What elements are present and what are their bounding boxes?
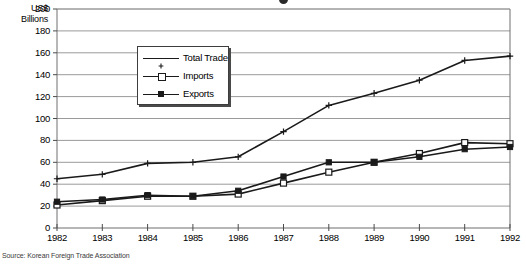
legend-label-exports: Exports xyxy=(183,87,214,101)
data-point-marker xyxy=(281,174,286,179)
x-tick-label: 1986 xyxy=(218,233,258,243)
data-point-marker xyxy=(144,160,150,166)
data-point-marker xyxy=(100,197,105,202)
legend-swatch-total-trade xyxy=(143,57,179,59)
data-point-marker xyxy=(54,176,60,182)
legend-label-imports: Imports xyxy=(183,69,213,83)
x-tick-label: 1984 xyxy=(128,233,168,243)
x-tick-label: 1989 xyxy=(354,233,394,243)
source-note: Source: Korean Foreign Trade Association xyxy=(2,252,130,260)
legend-label-total-trade: Total Trade xyxy=(183,51,228,65)
x-tick-label: 1991 xyxy=(445,233,485,243)
legend-item-total-trade: Total Trade xyxy=(143,51,225,65)
data-point-marker xyxy=(190,194,195,199)
x-tick-label: 1983 xyxy=(82,233,122,243)
x-tick-label: 1987 xyxy=(264,233,304,243)
trade-line-chart: US$ Billions 020406080100120140160180200… xyxy=(0,0,526,264)
x-tick-label: 1992 xyxy=(490,233,526,243)
data-point-marker xyxy=(281,180,287,186)
data-point-marker xyxy=(416,77,422,83)
x-tick-label: 1988 xyxy=(309,233,349,243)
data-point-marker xyxy=(372,160,377,165)
data-point-marker xyxy=(507,53,513,59)
plot-area xyxy=(0,0,526,264)
data-point-marker xyxy=(462,140,468,146)
data-point-marker xyxy=(99,171,105,177)
chart-legend: Total Trade Imports Exports xyxy=(137,46,229,105)
legend-item-imports: Imports xyxy=(143,69,225,83)
x-axis-tick-labels: 1982198319841985198619871988198919901991… xyxy=(0,233,526,247)
filled-square-marker-icon xyxy=(158,91,164,97)
data-point-marker xyxy=(417,154,422,159)
data-point-marker xyxy=(190,159,196,165)
legend-swatch-imports xyxy=(143,75,179,77)
x-tick-label: 1990 xyxy=(399,233,439,243)
data-point-marker xyxy=(235,154,241,160)
data-point-marker xyxy=(326,169,332,175)
legend-swatch-exports xyxy=(143,93,179,95)
data-point-marker xyxy=(54,199,59,204)
x-tick-label: 1985 xyxy=(173,233,213,243)
x-tick-label: 1982 xyxy=(37,233,77,243)
data-point-marker xyxy=(145,193,150,198)
legend-item-exports: Exports xyxy=(143,87,225,101)
data-point-marker xyxy=(236,188,241,193)
data-point-marker xyxy=(326,160,331,165)
open-square-marker-icon xyxy=(158,73,166,81)
data-point-marker xyxy=(507,144,512,149)
data-point-marker xyxy=(371,90,377,96)
data-point-marker xyxy=(462,57,468,63)
data-point-marker xyxy=(462,147,467,152)
